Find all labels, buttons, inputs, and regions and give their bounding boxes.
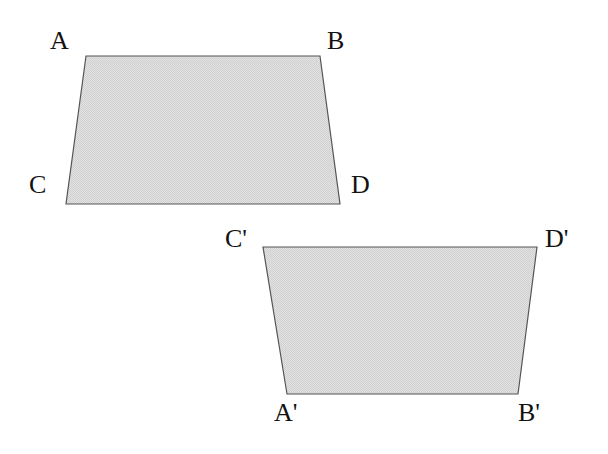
vertex-label-c-prime: C': [225, 226, 247, 252]
vertex-label-b: B: [327, 28, 344, 54]
vertex-label-c: C: [29, 172, 46, 198]
upper-quadrilateral: [66, 56, 340, 204]
vertex-label-d: D: [351, 172, 370, 198]
vertex-label-a: A: [50, 28, 69, 54]
vertex-label-b-prime: B': [518, 400, 540, 426]
vertex-label-a-prime: A': [274, 400, 297, 426]
vertex-label-d-prime: D': [545, 226, 568, 252]
lower-quadrilateral: [263, 247, 537, 394]
geometry-figure-canvas: [0, 0, 608, 454]
